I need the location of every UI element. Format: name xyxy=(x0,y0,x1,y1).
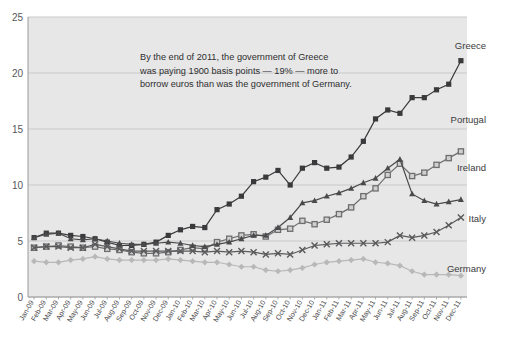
data-point-marker xyxy=(361,139,366,144)
data-point-marker xyxy=(190,224,195,229)
annotation-line: was paying 1900 basis points — 19% — mor… xyxy=(139,66,338,76)
data-point-marker xyxy=(300,218,305,223)
data-point-marker xyxy=(312,222,317,227)
data-point-marker xyxy=(434,162,439,167)
data-point-marker xyxy=(251,179,256,184)
data-point-marker xyxy=(227,201,232,206)
y-axis-tick-label: 0 xyxy=(17,292,23,303)
data-point-marker xyxy=(336,164,341,169)
data-point-marker xyxy=(397,111,402,116)
data-point-marker xyxy=(263,175,268,180)
data-point-marker xyxy=(312,160,317,165)
y-axis-tick-label: 10 xyxy=(12,180,24,191)
series-label-greece: Greece xyxy=(455,40,486,51)
data-point-marker xyxy=(324,217,329,222)
y-axis-tick-label: 5 xyxy=(17,236,23,247)
data-point-marker xyxy=(300,166,305,171)
y-axis-tick-label: 25 xyxy=(12,12,24,23)
data-point-marker xyxy=(373,116,378,121)
data-point-marker xyxy=(410,173,415,178)
data-point-marker xyxy=(178,227,183,232)
data-point-marker xyxy=(288,182,293,187)
data-point-marker xyxy=(288,226,293,231)
data-point-marker xyxy=(422,95,427,100)
series-label-germany: Germany xyxy=(447,263,486,274)
data-point-marker xyxy=(349,205,354,210)
data-point-marker xyxy=(446,82,451,87)
data-point-marker xyxy=(166,233,171,238)
data-point-marker xyxy=(324,166,329,171)
data-point-marker xyxy=(385,107,390,112)
annotation-line: By the end of 2011, the government of Gr… xyxy=(140,52,328,62)
data-point-marker xyxy=(434,87,439,92)
data-point-marker xyxy=(349,154,354,159)
series-label-ireland: Ireland xyxy=(457,162,486,173)
chart-container: 0510152025Jan-09Feb-09Mar-09Apr-09May-09… xyxy=(0,0,510,345)
data-point-marker xyxy=(361,194,366,199)
data-point-marker xyxy=(202,225,207,230)
data-point-marker xyxy=(214,207,219,212)
y-axis-tick-label: 15 xyxy=(12,124,24,135)
data-point-marker xyxy=(458,149,463,154)
y-axis-tick-label: 20 xyxy=(12,68,24,79)
data-point-marker xyxy=(422,170,427,175)
data-point-marker xyxy=(275,168,280,173)
line-chart: 0510152025Jan-09Feb-09Mar-09Apr-09May-09… xyxy=(0,0,510,345)
data-point-marker xyxy=(336,212,341,217)
series-label-italy: Italy xyxy=(469,213,487,224)
data-point-marker xyxy=(373,186,378,191)
data-point-marker xyxy=(446,156,451,161)
data-point-marker xyxy=(410,95,415,100)
data-point-marker xyxy=(458,58,463,63)
data-point-marker xyxy=(385,172,390,177)
annotation-line: borrow euros than was the government of … xyxy=(140,79,352,89)
series-label-portugal: Portugal xyxy=(451,114,486,125)
data-point-marker xyxy=(239,194,244,199)
